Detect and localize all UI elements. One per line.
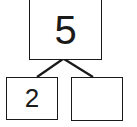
whole-value: 5 [54, 8, 76, 53]
whole-box: 5 [29, 0, 102, 60]
part-box-right[interactable] [71, 77, 123, 121]
part-value-left: 2 [25, 83, 39, 114]
part-box-left[interactable]: 2 [6, 77, 58, 120]
